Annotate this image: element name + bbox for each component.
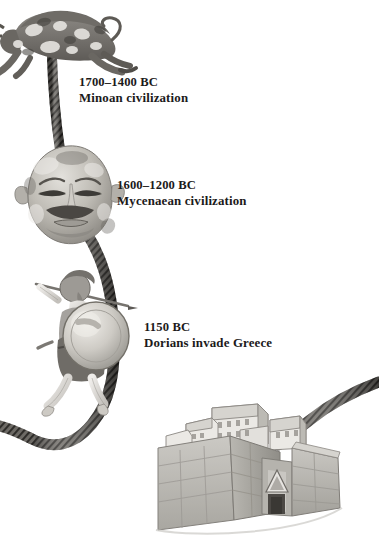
gold-funeral-mask-illustration <box>15 146 125 244</box>
timeline-label-mycenaean: 1600–1200 BC Mycenaean civilization <box>117 177 247 210</box>
timeline-date-minoan: 1700–1400 BC <box>79 74 188 90</box>
timeline-page: 1700–1400 BC Minoan civilization 1600–12… <box>0 0 379 542</box>
timeline-date-dorian: 1150 BC <box>144 319 272 335</box>
timeline-event-minoan: Minoan civilization <box>79 90 188 107</box>
timeline-artwork <box>0 0 379 542</box>
timeline-label-dorian: 1150 BC Dorians invade Greece <box>144 319 272 352</box>
timeline-date-mycenaean: 1600–1200 BC <box>117 177 247 193</box>
dorian-warrior-illustration <box>36 270 138 416</box>
leaping-bull-illustration <box>0 11 136 76</box>
rope-cord-icon <box>0 58 379 445</box>
timeline-label-minoan: 1700–1400 BC Minoan civilization <box>79 74 188 107</box>
timeline-event-mycenaean: Mycenaean civilization <box>117 193 247 210</box>
timeline-event-dorian: Dorians invade Greece <box>144 335 272 352</box>
